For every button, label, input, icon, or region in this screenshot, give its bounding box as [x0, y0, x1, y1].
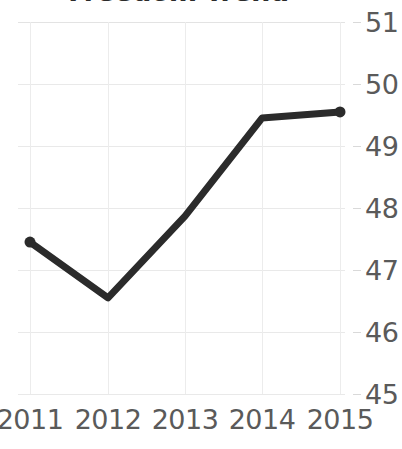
line-series-freedom-trend — [0, 0, 360, 400]
y-tick-51 — [353, 22, 361, 23]
data-point-2015 — [335, 106, 346, 117]
series-polyline — [30, 112, 340, 298]
x-axis-label-2014: 2014 — [217, 404, 307, 435]
y-axis-label-50: 50 — [365, 69, 402, 100]
y-axis-label-46: 46 — [365, 317, 402, 348]
plot-area — [0, 0, 360, 400]
chart-figure: Freedom Trend 51 50 49 48 47 — [0, 0, 402, 449]
y-axis-label-51: 51 — [365, 7, 402, 38]
series-markers — [25, 106, 346, 247]
y-axis: 51 50 49 48 47 46 45 — [345, 0, 402, 400]
y-axis-label-47: 47 — [365, 255, 402, 286]
data-point-2011 — [25, 237, 36, 248]
y-tick-46 — [353, 332, 361, 333]
y-tick-47 — [353, 270, 361, 271]
x-axis: 2011 2012 2013 2014 2015 — [0, 398, 360, 449]
y-tick-48 — [353, 208, 361, 209]
y-tick-45 — [353, 394, 361, 395]
y-axis-label-48: 48 — [365, 193, 402, 224]
y-axis-label-49: 49 — [365, 131, 402, 162]
y-tick-50 — [353, 84, 361, 85]
y-tick-49 — [353, 146, 361, 147]
x-axis-label-2015: 2015 — [295, 404, 385, 435]
